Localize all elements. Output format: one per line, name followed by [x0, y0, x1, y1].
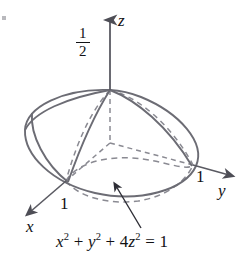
ellipsoid-equation-label: x2 + y2 + 4z2 = 1: [56, 232, 168, 250]
upper-rim-arc: [25, 90, 110, 130]
y-intercept-tick-label: 1: [196, 168, 205, 185]
x-axis-label: x: [26, 218, 34, 235]
z-intercept-fraction-label: 1 2: [76, 26, 90, 59]
fraction-numerator: 1: [76, 26, 90, 43]
equator-hidden-arc-back: [66, 158, 193, 181]
y-axis-hidden-segment: [110, 143, 193, 165]
ellipsoid-diagram: [0, 0, 240, 269]
x-intercept-tick-label: 1: [60, 195, 69, 212]
y-axis-label: y: [218, 182, 226, 199]
equation-equals-one: = 1: [141, 232, 168, 251]
page-corner-mark: [2, 16, 6, 20]
equation-x-var: x: [56, 232, 64, 251]
equation-pointer-arrow: [116, 186, 141, 228]
equation-plus-1: +: [69, 232, 88, 251]
equation-plus-4: + 4: [101, 232, 128, 251]
equation-y-var: y: [88, 232, 96, 251]
x-axis-hidden-segment: [66, 143, 110, 181]
z-axis-label: z: [118, 12, 125, 29]
xz-great-circle-front: [68, 90, 110, 182]
fraction-denominator: 2: [76, 43, 90, 59]
